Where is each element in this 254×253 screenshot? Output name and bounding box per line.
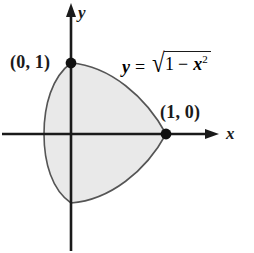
point-label-0-1: (0, 1): [10, 53, 50, 71]
radicand-first-term: 1: [165, 54, 174, 74]
radicand: 1−x2: [164, 51, 211, 75]
point-label-1-0: (1, 0): [160, 103, 200, 121]
square-root-group: √ 1−x2: [151, 48, 210, 75]
minus-operator: −: [178, 54, 188, 74]
equation-annotation: y = √ 1−x2: [122, 48, 211, 75]
equals-sign: =: [135, 57, 145, 78]
coordinate-plane-graphic: [0, 0, 254, 253]
equation-lhs: y: [122, 57, 130, 78]
radicand-exponent: 2: [202, 53, 208, 65]
point-marker-0-1: [66, 58, 77, 69]
radical-icon: √: [152, 50, 165, 77]
radicand-variable: x: [193, 54, 202, 74]
y-axis-arrowhead: [66, 3, 76, 17]
math-figure: y x (0, 1) (1, 0) y = √ 1−x2: [0, 0, 254, 253]
x-axis-arrowhead: [205, 129, 219, 139]
y-axis-label: y: [78, 4, 86, 21]
x-axis-label: x: [226, 125, 235, 142]
point-marker-1-0: [161, 129, 172, 140]
